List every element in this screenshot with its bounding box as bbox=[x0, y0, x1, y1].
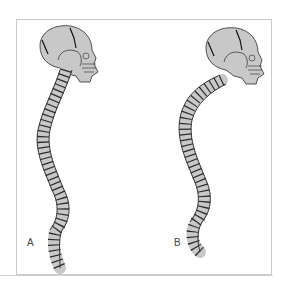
panel-b-illustration bbox=[179, 28, 264, 252]
skull-b-icon bbox=[206, 28, 264, 84]
panel-label-a: A bbox=[27, 237, 34, 248]
spine-illustrations bbox=[0, 0, 285, 287]
panel-a-illustration bbox=[37, 26, 98, 268]
panel-label-b: B bbox=[174, 237, 181, 248]
